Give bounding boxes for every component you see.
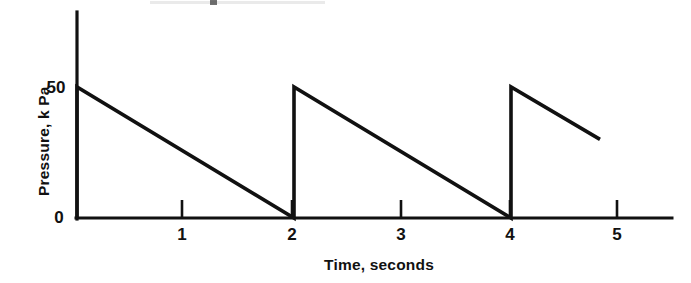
y-tick-label-0: 0	[48, 209, 70, 226]
sawtooth-waveform	[77, 87, 600, 218]
x-tick-label-4: 4	[500, 226, 520, 243]
data-series-pressure	[77, 87, 600, 218]
y-axis-title: Pressure, k Pa	[36, 86, 52, 196]
chart-screenshot: 50 0 1 2 3 4 5 Pressure, k Pa Time, seco…	[0, 0, 691, 283]
axis-lines	[76, 12, 672, 219]
x-tick-label-3: 3	[391, 226, 411, 243]
x-tick-label-5: 5	[607, 226, 627, 243]
x-tick-label-2: 2	[282, 226, 302, 243]
x-tick-label-1: 1	[172, 226, 192, 243]
x-axis-title: Time, seconds	[324, 257, 434, 273]
x-axis-ticks	[182, 200, 617, 218]
sawtooth-pressure-plot	[0, 0, 691, 283]
